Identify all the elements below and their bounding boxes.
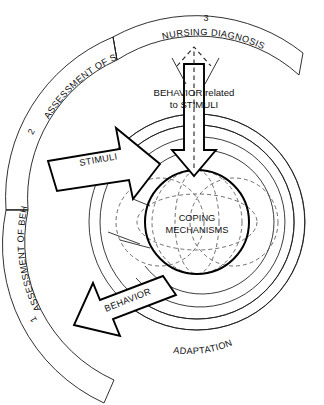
inner-connector-group [108,199,150,248]
coping-mechanisms-line2: MECHANISMS [165,225,228,235]
band-number-3: 3 [203,13,208,23]
callout-line1: BEHAVIOR related [154,87,235,98]
callout-leader-right [205,58,219,84]
stimuli-arrow: STIMULI [48,128,160,199]
band-nursing-diagnosis-shape [113,16,303,75]
roy-adaptation-model-diagram: NURSING DIAGNOSIS 3 ASSESSMENT OF STIMUL… [0,0,324,405]
connector-mid-left [108,232,140,244]
connector-stimuli-to-core [133,199,150,206]
band-nursing-diagnosis: NURSING DIAGNOSIS 3 [113,13,303,75]
callout-line2: to STIMULI [170,99,219,110]
diagram-canvas: NURSING DIAGNOSIS 3 ASSESSMENT OF STIMUL… [0,0,324,405]
connector-core-to-behavior [120,240,150,248]
adaptation-label: ADAPTATION [173,337,234,356]
band-assessment-of-stimuli-label: ASSESSMENT OF STIMULI [0,0,118,121]
coping-mechanisms-line1: COPING [179,213,216,223]
behavior-arrow: BEHAVIOR [74,276,176,336]
